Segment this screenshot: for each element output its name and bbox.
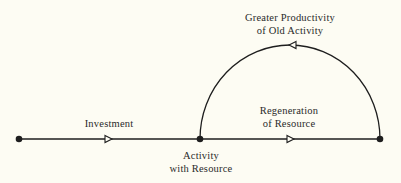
activity-node bbox=[197, 136, 204, 143]
start-node bbox=[16, 136, 23, 143]
regeneration-arrow-icon bbox=[287, 136, 294, 143]
regeneration-label-line2: of Resource bbox=[260, 117, 318, 130]
productivity-arrow-icon bbox=[289, 42, 296, 49]
investment-text: Investment bbox=[85, 118, 134, 129]
activity-label: Activity with Resource bbox=[170, 149, 233, 175]
end-node bbox=[377, 136, 384, 143]
activity-label-line1: Activity bbox=[170, 149, 233, 162]
regeneration-label: Regeneration of Resource bbox=[260, 104, 318, 130]
regeneration-label-line1: Regeneration bbox=[260, 104, 318, 117]
activity-label-line2: with Resource bbox=[170, 162, 233, 175]
productivity-label-line1: Greater Productivity bbox=[245, 11, 335, 24]
productivity-label-line2: of Old Activity bbox=[245, 24, 335, 37]
investment-label: Investment bbox=[85, 117, 134, 130]
productivity-label: Greater Productivity of Old Activity bbox=[245, 11, 335, 37]
investment-arrow-icon bbox=[105, 136, 112, 143]
